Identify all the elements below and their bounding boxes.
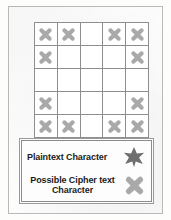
- grid-cell[interactable]: [35, 115, 58, 138]
- grid-cell[interactable]: [35, 69, 58, 92]
- cipher-x-burst-icon: [130, 96, 145, 111]
- grid-cell[interactable]: [103, 92, 126, 115]
- cipher-x-burst-icon: [38, 27, 53, 42]
- legend-entry-ciphertext: Possible Cipher text Character: [27, 175, 147, 196]
- grid-row: [35, 115, 149, 138]
- cipher-x-burst-icon: [38, 50, 53, 65]
- legend-label-plaintext: Plaintext Character: [27, 152, 107, 162]
- grid-cell[interactable]: [57, 23, 80, 46]
- grid-cell[interactable]: [57, 115, 80, 138]
- cipher-x-burst-icon: [38, 119, 53, 134]
- grid-cell[interactable]: [57, 46, 80, 69]
- page-frame: Plaintext Character Possible Cipher text…: [8, 6, 163, 214]
- grid-cell[interactable]: [103, 23, 126, 46]
- cipher-x-burst-icon: [38, 96, 53, 111]
- legend-label-ciphertext: Possible Cipher text Character: [27, 175, 118, 196]
- grid-row: [35, 69, 149, 92]
- grid-cell[interactable]: [80, 115, 103, 138]
- cipher-x-burst-icon: [130, 50, 145, 65]
- legend-entry-plaintext: Plaintext Character: [27, 146, 147, 168]
- grid-cell[interactable]: [126, 115, 149, 138]
- grid-cell[interactable]: [103, 115, 126, 138]
- grid-cell[interactable]: [80, 69, 103, 92]
- grid-cell[interactable]: [126, 23, 149, 46]
- grid-cell[interactable]: [35, 23, 58, 46]
- cipher-x-burst-icon: [130, 27, 145, 42]
- legend-label-ciphertext-line2: Character: [52, 185, 93, 195]
- grid-cell[interactable]: [126, 69, 149, 92]
- grid-row: [35, 23, 149, 46]
- grid-cell[interactable]: [35, 46, 58, 69]
- grid-row: [35, 46, 149, 69]
- cipher-grid-body: [35, 23, 149, 138]
- cipher-grid: [34, 22, 143, 132]
- grid-cell[interactable]: [126, 46, 149, 69]
- figure-root: Plaintext Character Possible Cipher text…: [0, 0, 171, 220]
- grid-row: [35, 92, 149, 115]
- legend-inner-frame: Plaintext Character Possible Cipher text…: [21, 140, 152, 202]
- cipher-x-burst-icon: [61, 27, 76, 42]
- legend-swatch-plaintext: [121, 146, 147, 168]
- grid-cell[interactable]: [80, 23, 103, 46]
- grid-cell[interactable]: [80, 92, 103, 115]
- grid-cell[interactable]: [103, 69, 126, 92]
- legend-swatch-ciphertext: [121, 175, 147, 196]
- cipher-grid-table: [34, 22, 149, 138]
- grid-cell[interactable]: [103, 46, 126, 69]
- cipher-x-burst-icon: [107, 119, 122, 134]
- cipher-x-burst-icon: [107, 27, 122, 42]
- grid-cell[interactable]: [126, 92, 149, 115]
- cipher-x-burst-icon: [61, 119, 76, 134]
- cipher-x-burst-icon: [130, 119, 145, 134]
- grid-cell[interactable]: [35, 92, 58, 115]
- legend-label-ciphertext-line1: Possible Cipher text: [30, 175, 115, 185]
- six-pointed-star-icon: [123, 146, 145, 168]
- grid-cell[interactable]: [57, 69, 80, 92]
- grid-cell[interactable]: [80, 46, 103, 69]
- legend-box: Plaintext Character Possible Cipher text…: [19, 138, 154, 204]
- grid-cell[interactable]: [57, 92, 80, 115]
- cipher-x-burst-icon: [124, 175, 145, 196]
